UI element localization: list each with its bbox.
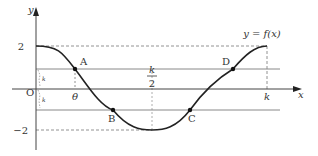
upper-spacing-label: k xyxy=(42,75,46,82)
origin-label: O xyxy=(26,87,34,98)
lower-spacing-brace xyxy=(38,90,40,108)
y-tick-2: 2 xyxy=(18,41,24,52)
curve-label: y = f(x) xyxy=(242,28,281,39)
x-tick-half-k-numerator: k xyxy=(149,64,155,75)
point-b-label: B xyxy=(108,113,115,124)
upper-spacing-brace xyxy=(38,70,40,86)
point-c-label: C xyxy=(188,113,196,124)
point-b xyxy=(111,108,115,112)
x-tick-theta: θ xyxy=(72,91,78,102)
lower-spacing-label: k xyxy=(42,96,46,103)
function-graph: y x O 2 −2 k k θ k 2 k A B C D y = f(x) xyxy=(0,0,318,156)
point-c xyxy=(188,108,192,112)
point-a-label: A xyxy=(79,56,88,67)
point-d xyxy=(231,67,235,71)
y-axis-label: y xyxy=(27,4,34,15)
x-tick-k: k xyxy=(264,91,270,102)
point-d-label: D xyxy=(222,56,230,67)
y-tick-minus-2: −2 xyxy=(13,125,28,136)
x-axis-label: x xyxy=(298,89,304,100)
point-a xyxy=(73,67,77,71)
x-tick-half-k-denominator: 2 xyxy=(149,78,155,89)
y-axis-arrow-icon xyxy=(33,7,39,16)
